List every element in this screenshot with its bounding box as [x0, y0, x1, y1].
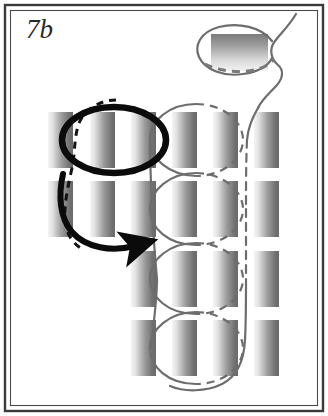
block-row-3 [131, 251, 279, 307]
gradient-block [131, 251, 156, 307]
gradient-block [172, 181, 197, 237]
gradient-block [254, 251, 279, 307]
block-row-2 [48, 181, 279, 237]
gradient-block [90, 112, 115, 168]
top-horizontal-block [211, 34, 268, 71]
gradient-block [172, 112, 197, 168]
gradient-block [172, 251, 197, 307]
figure-panel: 7b [0, 0, 328, 416]
figure-canvas [0, 0, 328, 416]
gradient-block [254, 181, 279, 237]
gray-left-descender [150, 140, 157, 348]
gradient-block [254, 112, 279, 168]
figure-label: 7b [26, 16, 53, 43]
gradient-block [172, 320, 197, 376]
gradient-block [254, 320, 279, 376]
gradient-block [90, 181, 115, 237]
